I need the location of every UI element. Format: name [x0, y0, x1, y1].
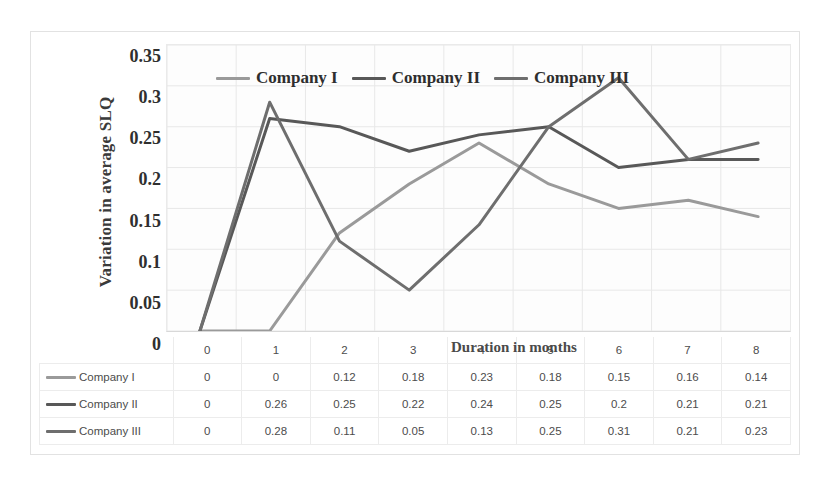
legend-label: Company I: [256, 68, 338, 88]
table-data-cell: 0.18: [379, 364, 448, 391]
table-series-label-cell: Company I: [40, 364, 174, 391]
table-data-cell: 0.23: [447, 364, 516, 391]
chart-data-table: 012345678 Company I000.120.180.230.180.1…: [39, 337, 791, 445]
table-column-header: 0: [173, 337, 242, 364]
table-column-header: 7: [653, 337, 722, 364]
y-axis-tick-label: 0.1: [89, 251, 161, 272]
series-line-1: [200, 143, 758, 331]
legend-entry-2[interactable]: Company II: [352, 68, 480, 88]
table-data-cell: 0.21: [653, 418, 722, 445]
chart-figure-frame: Variation in average SLQ 00.050.10.150.2…: [30, 31, 800, 455]
y-axis-tick-label: 0.35: [89, 46, 161, 67]
table-data-cell: 0.18: [516, 364, 585, 391]
table-data-cell: 0.2: [585, 391, 654, 418]
table-line-swatch-icon: [46, 403, 76, 406]
table-data-cell: 0.13: [447, 418, 516, 445]
table-row: Company II00.260.250.220.240.250.20.210.…: [40, 391, 791, 418]
table-data-cell: 0.31: [585, 418, 654, 445]
legend-label: Company II: [392, 68, 480, 88]
table-column-header: 1: [242, 337, 311, 364]
y-axis-tick-label: 0.25: [89, 128, 161, 149]
series-line-3: [200, 78, 758, 331]
table-row: Company III00.280.110.050.130.250.310.21…: [40, 418, 791, 445]
table-column-header: 6: [585, 337, 654, 364]
table-line-swatch-icon: [46, 376, 76, 379]
table-series-name: Company II: [79, 398, 138, 410]
legend-line-swatch-icon: [352, 77, 386, 80]
table-data-cell: 0.25: [516, 418, 585, 445]
table-data-cell: 0.14: [722, 364, 791, 391]
table-body: Company I000.120.180.230.180.150.160.14C…: [40, 364, 791, 445]
table-column-header: 8: [722, 337, 791, 364]
y-axis-tick-label: 0.05: [89, 292, 161, 313]
table-series-name: Company I: [79, 371, 135, 383]
legend-label: Company III: [534, 68, 629, 88]
table-header-row: 012345678: [40, 337, 791, 364]
table-corner-cell: [40, 337, 174, 364]
table-data-cell: 0: [173, 391, 242, 418]
x-axis-title: Duration in months: [451, 339, 577, 356]
table-data-cell: 0: [242, 364, 311, 391]
table-column-header: 2: [310, 337, 379, 364]
table-data-cell: 0.16: [653, 364, 722, 391]
table-data-cell: 0.12: [310, 364, 379, 391]
table-data-cell: 0.22: [379, 391, 448, 418]
legend-line-swatch-icon: [494, 77, 528, 80]
legend-entry-3[interactable]: Company III: [494, 68, 629, 88]
y-axis-tick-label: 0.3: [89, 87, 161, 108]
table-data-cell: 0: [173, 364, 242, 391]
table-data-cell: 0.21: [653, 391, 722, 418]
table-series-name: Company III: [79, 425, 141, 437]
table-data-cell: 0.25: [310, 391, 379, 418]
table-data-cell: 0.24: [447, 391, 516, 418]
y-axis-tick-label: 0.15: [89, 210, 161, 231]
table-line-swatch-icon: [46, 430, 76, 433]
table-data-cell: 0.28: [242, 418, 311, 445]
table-data-cell: 0.15: [585, 364, 654, 391]
table-row: Company I000.120.180.230.180.150.160.14: [40, 364, 791, 391]
table-series-label-cell: Company II: [40, 391, 174, 418]
table-series-label-cell: Company III: [40, 418, 174, 445]
chart-legend: Company ICompany IICompany III: [216, 68, 629, 88]
y-axis-tick-labels: 00.050.10.150.20.250.30.35: [89, 44, 161, 332]
legend-line-swatch-icon: [216, 77, 250, 80]
table-data-cell: 0.23: [722, 418, 791, 445]
table-data-cell: 0.11: [310, 418, 379, 445]
table-data-cell: 0.25: [516, 391, 585, 418]
table-data-cell: 0.21: [722, 391, 791, 418]
y-axis-tick-label: 0.2: [89, 169, 161, 190]
table-data-cell: 0.26: [242, 391, 311, 418]
table-data-cell: 0.05: [379, 418, 448, 445]
table-column-header: 3: [379, 337, 448, 364]
table-data-cell: 0: [173, 418, 242, 445]
legend-entry-1[interactable]: Company I: [216, 68, 338, 88]
